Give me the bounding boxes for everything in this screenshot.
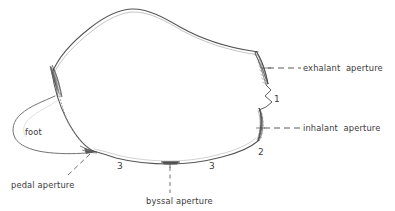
pedal-leader-line bbox=[66, 154, 90, 177]
inhalant-aperture-patch bbox=[256, 108, 265, 141]
label-byssal-aperture: byssal aperture bbox=[146, 196, 213, 206]
shell-anterior-margin bbox=[52, 73, 93, 151]
label-foot: foot bbox=[25, 127, 42, 137]
label-number-3-left: 3 bbox=[117, 161, 123, 171]
shell-dorsal-margin-inner bbox=[53, 12, 258, 75]
shell-posterior-notch bbox=[259, 85, 272, 110]
byssal-notch bbox=[161, 162, 180, 169]
label-number-2: 2 bbox=[258, 147, 264, 157]
label-number-1: 1 bbox=[274, 94, 280, 104]
foot-dotted-trace bbox=[56, 76, 92, 151]
shell-ventral-margin-inner bbox=[94, 138, 256, 161]
shell-anatomy-diagram: exhalant aperture inhalant aperture peda… bbox=[0, 0, 395, 211]
foot-outline bbox=[13, 96, 93, 154]
label-pedal-aperture: pedal aperture bbox=[11, 180, 74, 190]
label-inhalant-aperture: inhalant aperture bbox=[303, 123, 381, 133]
label-number-3-right: 3 bbox=[209, 161, 215, 171]
shell-dorsal-margin bbox=[52, 9, 258, 73]
label-exhalant-aperture: exhalant aperture bbox=[303, 63, 383, 73]
